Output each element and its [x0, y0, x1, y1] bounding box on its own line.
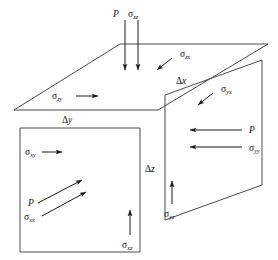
front-p-arrow [38, 180, 82, 203]
sigma-yx-arrow [198, 93, 213, 105]
front-p-label: P [27, 198, 34, 208]
delta-x-label: Δx [176, 76, 187, 86]
sigma-xx-arrow [42, 192, 86, 216]
sigma-xx-label: σxx [24, 212, 35, 223]
sigma-zy-label: σzy [52, 91, 63, 102]
sigma-yz-label: σyz [164, 209, 175, 220]
top-p-label: P [112, 9, 119, 19]
delta-z-label: Δz [145, 164, 155, 174]
right-p-label: P [248, 125, 255, 135]
front-face [20, 128, 140, 252]
sigma-zx-label: σzx [180, 49, 191, 60]
sigma-zz-label: σzz [128, 9, 139, 20]
delta-y-label: Δy [62, 115, 73, 125]
sigma-xy-label: σxy [25, 147, 36, 158]
sigma-yy-label: σyy [249, 143, 260, 154]
sigma-yx-label: σyx [221, 84, 232, 95]
stress-diagram-canvas: P σzz σzx σzy σyx P σyy σyz σxy P [0, 0, 278, 260]
sigma-zx-arrow [157, 58, 172, 70]
stress-diagram-figure: P σzz σzx σzy σyx P σyy σyz σxy P [0, 0, 278, 260]
sigma-xz-label: σxz [122, 240, 133, 251]
